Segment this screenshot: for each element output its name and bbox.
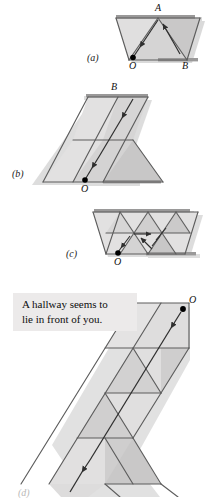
panel-label-a: (a) bbox=[87, 52, 99, 63]
panel-c-origin-dot bbox=[115, 250, 121, 256]
panel-b-graphic bbox=[32, 94, 163, 186]
panel-a-graphic bbox=[116, 15, 205, 63]
vertex-label-a-right: B bbox=[182, 60, 188, 71]
panel-c-graphic bbox=[93, 209, 203, 258]
vertex-label-b-top: B bbox=[111, 81, 117, 92]
caption-line-2: lie in front of you. bbox=[22, 312, 137, 327]
panel-b-origin-dot bbox=[82, 177, 88, 183]
vertex-label-a-top: A bbox=[155, 2, 161, 13]
vertex-label-a-origin: O bbox=[129, 60, 136, 71]
panel-label-c: (c) bbox=[66, 248, 77, 259]
panel-d-origin-dot bbox=[180, 306, 186, 312]
panel-d-graphic bbox=[21, 303, 190, 497]
vertex-label-d-origin: O bbox=[189, 294, 196, 305]
caption-box: A hallway seems to lie in front of you. bbox=[13, 293, 137, 331]
panel-label-d: (d) bbox=[18, 487, 30, 498]
caption-line-1: A hallway seems to bbox=[22, 297, 137, 312]
vertex-label-c-origin: O bbox=[114, 256, 121, 267]
panel-label-b: (b) bbox=[12, 168, 24, 179]
vertex-label-b-origin: O bbox=[81, 183, 88, 194]
